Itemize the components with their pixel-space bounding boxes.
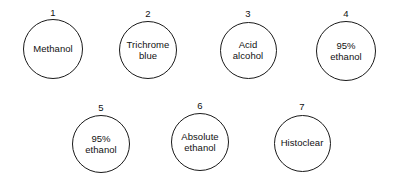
step-node-6[interactable]: 6Absolute ethanol: [171, 101, 229, 171]
step-node-4[interactable]: 495% ethanol: [316, 9, 376, 81]
step-number-5: 5: [72, 103, 130, 113]
step-circle-2[interactable]: Trichrome blue: [119, 21, 177, 79]
step-circle-6[interactable]: Absolute ethanol: [171, 113, 229, 171]
step-circle-5[interactable]: 95% ethanol: [72, 115, 130, 173]
step-label-3: Acid alcohol: [230, 39, 266, 62]
step-circle-3[interactable]: Acid alcohol: [220, 22, 277, 79]
step-label-2: Trichrome blue: [124, 39, 173, 62]
step-node-3[interactable]: 3Acid alcohol: [220, 9, 277, 79]
step-node-5[interactable]: 595% ethanol: [72, 103, 130, 173]
step-label-5: 95% ethanol: [82, 133, 120, 156]
step-number-7: 7: [274, 102, 331, 112]
step-node-1[interactable]: 1Methanol: [23, 8, 83, 79]
step-node-2[interactable]: 2Trichrome blue: [119, 9, 177, 79]
step-number-6: 6: [171, 101, 229, 111]
step-circle-1[interactable]: Methanol: [23, 19, 83, 79]
step-circle-7[interactable]: Histoclear: [274, 115, 331, 172]
step-number-2: 2: [119, 9, 177, 19]
step-number-4: 4: [316, 9, 376, 19]
step-label-7: Histoclear: [278, 137, 327, 149]
diagram-canvas: 1Methanol2Trichrome blue3Acid alcohol495…: [0, 0, 398, 185]
step-label-4: 95% ethanol: [327, 40, 365, 63]
step-number-3: 3: [220, 9, 277, 19]
step-node-7[interactable]: 7Histoclear: [274, 102, 331, 172]
step-label-1: Methanol: [30, 43, 75, 55]
step-circle-4[interactable]: 95% ethanol: [316, 21, 376, 81]
step-number-1: 1: [23, 8, 83, 18]
step-label-6: Absolute ethanol: [178, 131, 221, 154]
